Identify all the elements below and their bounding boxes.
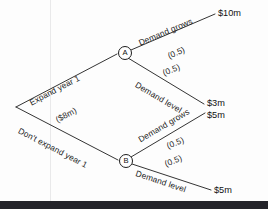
payoff-a-level: $3m bbox=[207, 98, 225, 108]
payoff-a-grows: $10m bbox=[218, 8, 241, 18]
payoff-b-level: $5m bbox=[214, 185, 232, 195]
node-b: B bbox=[119, 154, 133, 168]
node-a: A bbox=[118, 46, 132, 60]
decision-tree-diagram: A B Expand year 1 ($8m) Don't expand yea… bbox=[0, 0, 268, 209]
scan-edge-band bbox=[0, 201, 268, 209]
payoff-b-grows: $5m bbox=[207, 110, 225, 120]
